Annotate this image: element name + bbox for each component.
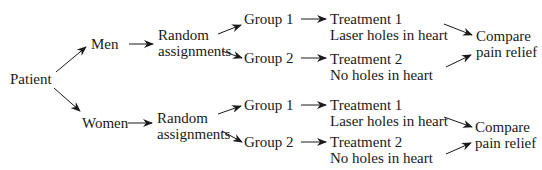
node-women-group-2: Group 2 — [244, 134, 294, 150]
treatment-1-description: Laser holes in heart — [330, 27, 448, 43]
men-label: Men — [91, 36, 119, 52]
patient-label: Patient — [10, 71, 52, 87]
node-men: Men — [91, 36, 119, 52]
node-men-random-assignments: Random assignments — [158, 27, 231, 59]
women-label: Women — [82, 115, 128, 131]
node-women-random-assignments: Random assignments — [157, 110, 230, 142]
treatment-2-label: Treatment 2 — [330, 51, 433, 67]
random-label: Random — [158, 27, 231, 43]
arrow-men-treatment1-to-compare — [444, 24, 472, 35]
treatment-2-description: No holes in heart — [330, 150, 433, 166]
compare-label: Compare — [475, 119, 536, 135]
experiment-design-diagram: Patient Men Random assignments Group 1 G… — [0, 0, 542, 170]
node-men-treatment-1: Treatment 1 Laser holes in heart — [330, 11, 448, 43]
pain-relief-label: pain relief — [475, 135, 536, 151]
group-1-label: Group 1 — [244, 97, 294, 113]
group-2-label: Group 2 — [244, 50, 294, 66]
arrow-women-treatment2-to-compare — [446, 143, 471, 154]
node-women-treatment-2: Treatment 2 No holes in heart — [330, 134, 433, 166]
node-women: Women — [82, 115, 128, 131]
node-men-group-2: Group 2 — [244, 50, 294, 66]
node-men-compare-pain-relief: Compare pain relief — [476, 28, 537, 60]
treatment-2-label: Treatment 2 — [330, 134, 433, 150]
node-women-treatment-1: Treatment 1 Laser holes in heart — [330, 97, 448, 129]
treatment-1-label: Treatment 1 — [330, 11, 448, 27]
assignments-label: assignments — [157, 126, 230, 142]
compare-label: Compare — [476, 28, 537, 44]
treatment-1-description: Laser holes in heart — [330, 113, 448, 129]
arrow-patient-to-women — [54, 88, 80, 111]
pain-relief-label: pain relief — [476, 44, 537, 60]
arrow-patient-to-men — [56, 47, 86, 72]
arrow-women-treatment1-to-compare — [444, 117, 472, 127]
arrow-men-treatment2-to-compare — [446, 55, 471, 67]
node-women-compare-pain-relief: Compare pain relief — [475, 119, 536, 151]
treatment-1-label: Treatment 1 — [330, 97, 448, 113]
node-patient: Patient — [10, 71, 52, 87]
assignments-label: assignments — [158, 43, 231, 59]
node-women-group-1: Group 1 — [244, 97, 294, 113]
group-1-label: Group 1 — [244, 11, 294, 27]
treatment-2-description: No holes in heart — [330, 67, 433, 83]
group-2-label: Group 2 — [244, 134, 294, 150]
node-men-group-1: Group 1 — [244, 11, 294, 27]
node-men-treatment-2: Treatment 2 No holes in heart — [330, 51, 433, 83]
random-label: Random — [157, 110, 230, 126]
